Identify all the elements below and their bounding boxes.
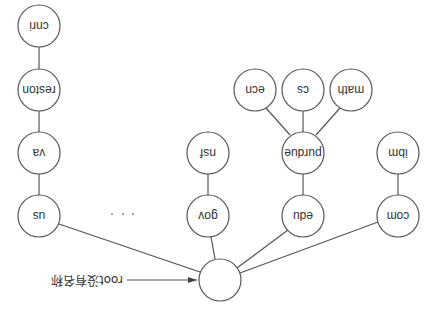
node-ibm: ibm (377, 132, 419, 174)
node-gov: gov (187, 195, 229, 237)
node-math: math (330, 69, 372, 111)
node-label-purdue: purdue (284, 146, 322, 160)
node-label-gov: gov (198, 209, 217, 223)
edge-root-edu (237, 230, 288, 268)
ellipsis-dots (111, 213, 134, 215)
node-purdue: purdue (282, 132, 324, 174)
node-label-math: math (338, 83, 365, 97)
node-label-com: com (387, 209, 410, 223)
node-ecn: ecn (234, 69, 276, 111)
edge-root-us (59, 224, 200, 272)
node-cs: cs (282, 69, 324, 111)
node-cnri: cnri (18, 5, 60, 47)
node-label-cnri: cnri (29, 19, 48, 33)
dns-tree-diagram: us va reston cnri gov nsf edu purdue ecn… (0, 0, 430, 317)
node-root (199, 259, 241, 301)
edge-purdue-math (316, 108, 340, 135)
node-edu: edu (282, 195, 324, 237)
node-label-ibm: ibm (388, 146, 407, 160)
node-label-nsf: nsf (199, 146, 216, 160)
node-reston: reston (18, 69, 60, 111)
node-label-va: va (32, 146, 45, 160)
node-label-us: us (33, 209, 46, 223)
edge-root-gov (211, 237, 215, 259)
node-va: va (18, 132, 60, 174)
node-us: us (18, 195, 60, 237)
node-label-ecn: ecn (245, 83, 264, 97)
edge-purdue-ecn (266, 108, 290, 135)
node-nsf: nsf (187, 132, 229, 174)
node-label-cs: cs (297, 83, 309, 97)
node-label-edu: edu (293, 209, 313, 223)
node-label-reston: reston (22, 83, 55, 97)
node-com: com (377, 195, 419, 237)
root-annotation-label: root没有名称 (51, 273, 123, 288)
